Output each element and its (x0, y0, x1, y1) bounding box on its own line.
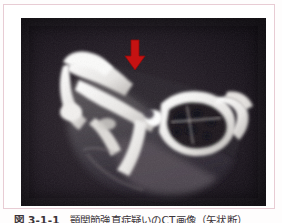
figure-number: 図 3-1-1 (14, 214, 60, 223)
figure-caption: 図 3-1-1顎関節強直症疑いのCT画像（矢状断） (14, 214, 276, 223)
figure-page: 図 3-1-1顎関節強直症疑いのCT画像（矢状断） (0, 0, 282, 223)
ct-scan-content (21, 18, 266, 206)
ct-scan-image (21, 18, 266, 206)
figure-caption-text: 顎関節強直症疑いのCT画像（矢状断） (70, 214, 247, 223)
ct-noise-overlay (21, 18, 266, 206)
ct-scan-canvas (21, 18, 266, 206)
figure-frame (3, 4, 275, 209)
figure-caption-line: 図 3-1-1顎関節強直症疑いのCT画像（矢状断） (14, 214, 276, 223)
